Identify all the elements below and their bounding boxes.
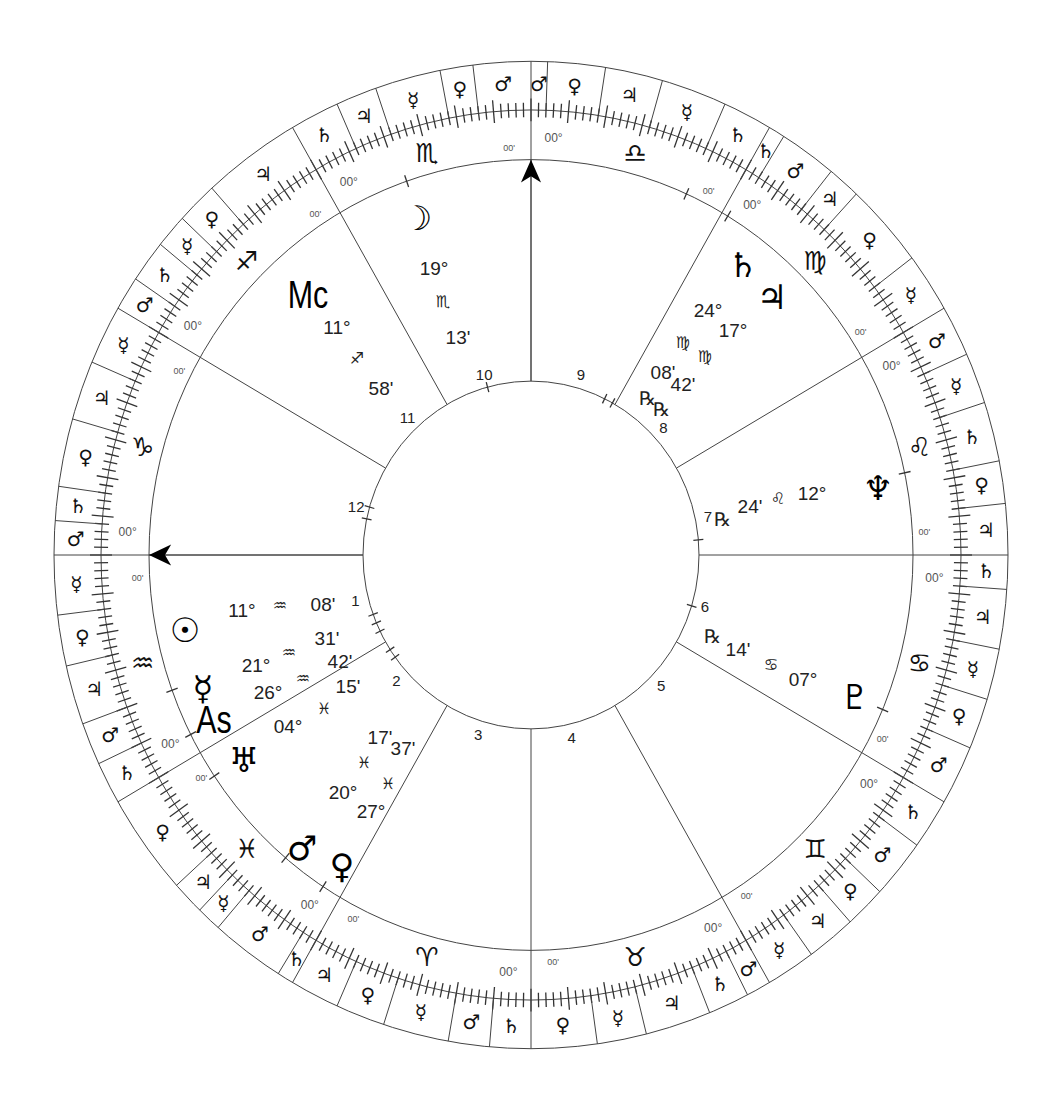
term-divider (489, 998, 493, 1046)
cusp-minute-label: 00' (195, 773, 207, 783)
degree-tick (901, 336, 913, 343)
term-ruler-glyph: ☿ (950, 374, 962, 398)
term-ruler-glyph: ♃ (974, 605, 992, 629)
planet-position-marker (693, 539, 703, 540)
sign-glyph-virgo: ♍ (804, 246, 827, 276)
degree-tick (165, 309, 177, 317)
house-number-12: 12 (348, 498, 365, 515)
planet-sign-glyph: ♏ (436, 292, 450, 311)
sign-glyph-capricorn: ♑ (131, 432, 154, 462)
cusp-degree-label: 00° (925, 571, 943, 585)
term-divider (953, 461, 999, 470)
degree-tick (95, 531, 109, 532)
planet-ring-marker (725, 211, 731, 222)
degree-tick (485, 105, 486, 119)
jupiter-glyph-icon: ♃ (757, 277, 787, 317)
degree-tick (177, 812, 188, 821)
degree-tick (123, 393, 136, 398)
degree-tick (501, 992, 502, 1006)
term-ruler-glyph: ♀ (204, 207, 219, 231)
term-ruler-glyph: ♄ (287, 947, 305, 971)
degree-tick (954, 570, 968, 571)
degree-tick (367, 961, 372, 974)
term-ruler-glyph: ♀ (567, 74, 582, 98)
term-ruler-glyph: ☿ (217, 891, 229, 915)
term-ruler-glyph: ♀ (155, 820, 170, 844)
term-ruler-glyph: ♃ (977, 518, 995, 542)
term-ruler-glyph: ☿ (905, 283, 917, 307)
degree-tick (553, 103, 554, 117)
degree-tick (138, 357, 151, 363)
planet-degree: 27° (357, 801, 386, 822)
term-ruler-glyph: ♃ (93, 386, 111, 410)
term-divider (92, 362, 135, 381)
degree-tick (132, 733, 145, 739)
degree-tick (908, 350, 920, 357)
term-divider (55, 521, 102, 524)
planet-degree: 20° (329, 782, 358, 803)
term-divider (83, 707, 127, 724)
degree-tick (561, 992, 562, 1006)
planet-degree: 07° (789, 669, 818, 690)
mars-glyph-icon: ♂ (287, 828, 317, 868)
degree-tick (268, 194, 276, 206)
degree-tick (683, 964, 688, 978)
degree-tick (319, 938, 326, 951)
term-divider (942, 685, 987, 699)
degree-tick (96, 601, 110, 603)
pluto-glyph-icon: ♇ (840, 677, 870, 717)
degree-tick (97, 500, 111, 502)
term-ruler-glyph: ♃ (315, 963, 333, 987)
degree-tick (911, 738, 931, 748)
term-ruler-glyph: ♀ (862, 228, 877, 252)
degree-tick (177, 289, 188, 298)
degree-tick (911, 747, 924, 753)
term-ruler-glyph: ♃ (355, 104, 373, 128)
degree-tick (333, 152, 339, 165)
cusp-minute-label: 00' (741, 891, 753, 901)
degree-tick (925, 703, 946, 711)
term-divider (959, 503, 1006, 508)
degree-tick (299, 171, 306, 183)
cusp-minute-label: 00' (877, 734, 889, 744)
term-divider (953, 640, 999, 649)
degree-tick (845, 252, 855, 262)
term-ruler-glyph: ♀ (952, 704, 967, 728)
term-ruler-glyph: ♀ (360, 983, 375, 1007)
planet-degree: 26° (254, 682, 283, 703)
degree-tick (145, 761, 157, 768)
degree-tick (508, 103, 509, 117)
degree-tick (908, 754, 920, 761)
cusp-minute-label: 00' (503, 143, 515, 153)
term-divider (927, 729, 970, 748)
degree-tick (953, 578, 967, 579)
term-divider (59, 486, 106, 493)
degree-tick (723, 152, 729, 165)
cusp-degree-label: 00° (184, 319, 202, 333)
term-ruler-glyph: ♀ (75, 625, 90, 649)
degree-tick (917, 733, 930, 739)
cusp-minute-label: 00' (547, 957, 559, 967)
planet-ring-marker (320, 881, 327, 891)
degree-tick (716, 948, 722, 961)
degree-tick (904, 761, 916, 768)
degree-tick (786, 194, 794, 206)
degree-tick (873, 289, 884, 298)
venus-glyph-icon: ♀ (330, 846, 355, 886)
degree-tick (768, 180, 776, 192)
degree-tick (244, 214, 253, 225)
degree-tick (583, 990, 585, 1004)
degree-tick (923, 719, 936, 724)
degree-tick (182, 818, 193, 827)
term-divider (448, 993, 456, 1041)
degree-tick (708, 948, 717, 969)
planet-degree: 12° (798, 483, 827, 504)
house-number-1: 1 (351, 592, 359, 609)
degree-tick (142, 754, 154, 761)
term-divider (960, 586, 1007, 589)
degree-tick (814, 219, 823, 230)
term-divider (337, 962, 356, 1006)
sign-glyph-taurus: ♉ (623, 942, 646, 972)
degree-tick (191, 831, 202, 840)
degree-tick (156, 322, 168, 329)
